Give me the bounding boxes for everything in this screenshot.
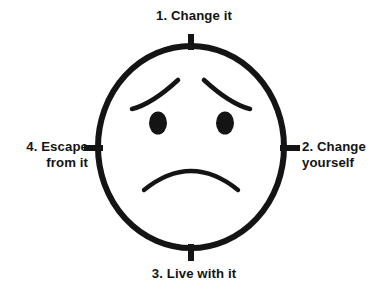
label-change-yourself: 2. Change yourself — [302, 139, 386, 170]
label-escape-from-it: 4. Escape from it — [6, 139, 88, 170]
four-options-diagram: 1. Change it 2. Change yourself 3. Live … — [0, 0, 388, 292]
label-live-with-it: 3. Live with it — [0, 266, 388, 282]
face-outline-circle — [98, 46, 284, 248]
label-change-it: 1. Change it — [0, 8, 388, 24]
right-eye — [216, 112, 234, 135]
left-eye — [149, 112, 167, 135]
